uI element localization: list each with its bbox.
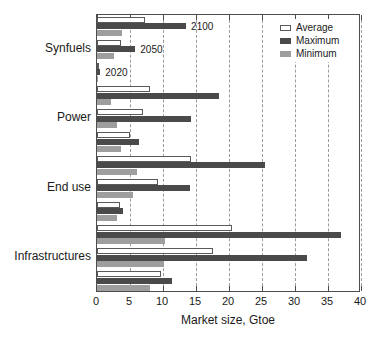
year-annotation-2020: 2020 xyxy=(105,67,127,78)
y-axis-label-synfuels: Synfuels xyxy=(45,41,91,55)
legend-label-maximum: Maximum xyxy=(296,35,339,46)
y-axis-label-power: Power xyxy=(57,110,91,124)
bar-end-use-2020-minimum xyxy=(97,215,117,221)
legend-item-minimum: Minimum xyxy=(280,47,353,60)
x-tick-top-10 xyxy=(163,15,164,20)
bar-infrastructures-2020-maximum xyxy=(97,278,172,284)
bar-power-2020-average xyxy=(97,132,130,138)
x-tick-15 xyxy=(196,286,197,291)
x-tick-label-0: 0 xyxy=(81,295,111,307)
legend-label-average: Average xyxy=(296,22,333,33)
bar-end-use-2050-minimum xyxy=(97,192,133,198)
x-tick-top-15 xyxy=(196,15,197,20)
bar-power-2020-maximum xyxy=(97,139,139,145)
bar-end-use-2100-average xyxy=(97,156,191,162)
bar-infrastructures-2020-minimum xyxy=(97,285,150,291)
bar-power-2050-average xyxy=(97,109,143,115)
bar-infrastructures-2050-average xyxy=(97,248,213,254)
bar-synfuels-2100-maximum xyxy=(97,23,186,29)
x-tick-10 xyxy=(163,286,164,291)
x-tick-label-30: 30 xyxy=(279,295,309,307)
bar-infrastructures-2100-minimum xyxy=(97,238,165,244)
legend-swatch-maximum xyxy=(280,38,291,44)
chart-legend: Average Maximum Minimum xyxy=(277,19,356,62)
gridline-x-20 xyxy=(229,15,230,291)
legend-swatch-minimum xyxy=(280,51,291,57)
x-tick-label-10: 10 xyxy=(147,295,177,307)
bar-synfuels-2020-maximum xyxy=(97,69,100,75)
x-tick-label-25: 25 xyxy=(246,295,276,307)
legend-item-average: Average xyxy=(280,21,353,34)
year-annotation-2100: 2100 xyxy=(191,21,213,32)
legend-item-maximum: Maximum xyxy=(280,34,353,47)
gridline-x-40 xyxy=(361,15,362,291)
year-annotation-2050: 2050 xyxy=(140,44,162,55)
bar-synfuels-2100-minimum xyxy=(97,30,122,36)
chart-figure: SynfuelsPowerEnd useInfrastructures 0510… xyxy=(0,0,388,347)
x-tick-label-20: 20 xyxy=(213,295,243,307)
bar-infrastructures-2020-average xyxy=(97,271,161,277)
bar-end-use-2100-minimum xyxy=(97,169,137,175)
x-tick-35 xyxy=(328,286,329,291)
y-axis-labels: SynfuelsPowerEnd useInfrastructures xyxy=(0,0,91,292)
x-tick-label-35: 35 xyxy=(312,295,342,307)
x-tick-label-15: 15 xyxy=(180,295,210,307)
bar-infrastructures-2050-minimum xyxy=(97,261,164,267)
bar-synfuels-2050-maximum xyxy=(97,46,135,52)
legend-swatch-average xyxy=(280,25,291,31)
bar-end-use-2020-maximum xyxy=(97,208,123,214)
bar-synfuels-2020-minimum xyxy=(97,76,98,82)
bar-synfuels-2050-average xyxy=(97,40,121,46)
bar-synfuels-2050-minimum xyxy=(97,53,114,59)
bar-power-2050-maximum xyxy=(97,116,191,122)
bar-infrastructures-2050-maximum xyxy=(97,255,307,261)
bar-power-2100-maximum xyxy=(97,93,219,99)
x-tick-label-5: 5 xyxy=(114,295,144,307)
y-axis-label-end-use: End use xyxy=(47,180,91,194)
bar-synfuels-2020-average xyxy=(97,63,99,69)
x-tick-25 xyxy=(262,286,263,291)
bar-end-use-2020-average xyxy=(97,202,120,208)
bar-power-2050-minimum xyxy=(97,122,117,128)
x-tick-20 xyxy=(229,286,230,291)
x-tick-30 xyxy=(295,286,296,291)
legend-label-minimum: Minimum xyxy=(296,48,337,59)
bar-infrastructures-2100-average xyxy=(97,225,232,231)
bar-end-use-2050-average xyxy=(97,179,158,185)
x-tick-top-20 xyxy=(229,15,230,20)
bar-power-2100-average xyxy=(97,86,150,92)
x-tick-40 xyxy=(361,286,362,291)
x-tick-top-25 xyxy=(262,15,263,20)
bar-end-use-2050-maximum xyxy=(97,185,190,191)
x-axis-title: Market size, Gtoe xyxy=(96,313,360,327)
gridline-x-25 xyxy=(262,15,263,291)
y-axis-label-infrastructures: Infrastructures xyxy=(14,249,91,263)
bar-infrastructures-2100-maximum xyxy=(97,232,341,238)
bar-power-2100-minimum xyxy=(97,99,111,105)
bar-end-use-2100-maximum xyxy=(97,162,265,168)
bar-power-2020-minimum xyxy=(97,146,121,152)
bar-synfuels-2100-average xyxy=(97,17,145,23)
x-tick-label-40: 40 xyxy=(345,295,375,307)
x-tick-top-40 xyxy=(361,15,362,20)
